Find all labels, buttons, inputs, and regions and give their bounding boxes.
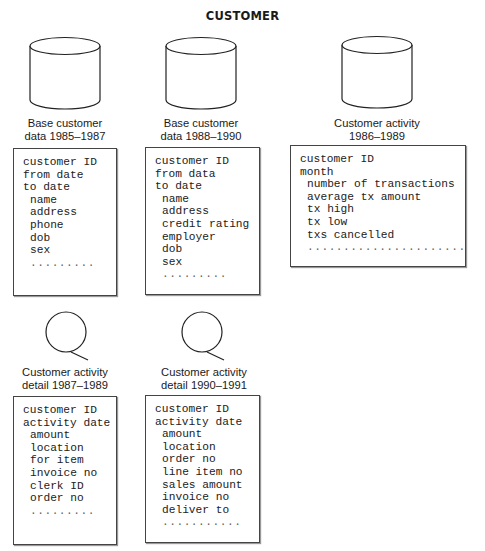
attribute: employer (155, 231, 259, 244)
record-box-customer-activity-1986-1989: customer ID month number of transactions… (290, 145, 466, 267)
key-field: customer ID (23, 156, 116, 169)
key-field: to date (155, 180, 259, 193)
key-field: activity date (23, 417, 116, 430)
ellipsis-dots: ......... (155, 268, 259, 281)
attribute: deliver to (155, 504, 259, 517)
record-box-activity-detail-1987-1989: customer ID activity date amount locatio… (13, 396, 117, 545)
key-field: from data (155, 168, 259, 181)
caption-line: Customer activity (141, 366, 267, 379)
attribute: invoice no (23, 467, 116, 480)
ellipsis-dots: ......... (23, 257, 116, 270)
attribute: line item no (155, 466, 259, 479)
attribute: order no (155, 453, 259, 466)
key-field: customer ID (300, 153, 465, 166)
caption-line: Customer activity (317, 117, 437, 130)
attribute: order no (23, 492, 116, 505)
database-cylinder-icon (340, 35, 414, 113)
store-caption: Customer activity detail 1990–1991 (141, 366, 267, 392)
caption-line: data 1985–1987 (5, 130, 125, 143)
attribute: sex (23, 244, 116, 257)
attribute: name (23, 194, 116, 207)
attribute: invoice no (155, 491, 259, 504)
store-caption: Customer activity 1986–1989 (317, 117, 437, 143)
record-box-base-customer-1988-1990: customer ID from data to date name addre… (145, 147, 260, 295)
attribute: amount (23, 429, 116, 442)
key-field: customer ID (23, 404, 116, 417)
attribute: location (155, 441, 259, 454)
attribute: address (23, 206, 116, 219)
attribute: txs cancelled (300, 229, 465, 242)
caption-line: detail 1990–1991 (141, 379, 267, 392)
attribute: name (155, 193, 259, 206)
attribute: location (23, 442, 116, 455)
caption-line: data 1988–1990 (141, 130, 261, 143)
caption-line: detail 1987–1989 (5, 379, 125, 392)
store-caption: Customer activity detail 1987–1989 (5, 366, 125, 392)
key-field: activity date (155, 416, 259, 429)
caption-line: Customer activity (5, 366, 125, 379)
attribute: credit rating (155, 218, 259, 231)
attribute: number of transactions (300, 178, 465, 191)
store-caption: Base customer data 1985–1987 (5, 117, 125, 143)
attribute: amount (155, 428, 259, 441)
attribute: clerk ID (23, 480, 116, 493)
attribute: tx low (300, 216, 465, 229)
database-cylinder-icon (28, 36, 102, 114)
magnifier-detail-icon (44, 310, 94, 364)
key-field: customer ID (155, 403, 259, 416)
database-cylinder-icon (164, 36, 238, 114)
key-field: customer ID (155, 155, 259, 168)
diagram-title: CUSTOMER (0, 9, 485, 23)
key-field: month (300, 166, 465, 179)
ellipsis-dots: ........... (155, 516, 259, 529)
attribute: dob (155, 243, 259, 256)
attribute: dob (23, 232, 116, 245)
attribute: for item (23, 454, 116, 467)
caption-line: Base customer (141, 117, 261, 130)
caption-line: 1986–1989 (317, 130, 437, 143)
caption-line: Base customer (5, 117, 125, 130)
attribute: sales amount (155, 479, 259, 492)
record-box-activity-detail-1990-1991: customer ID activity date amount locatio… (145, 395, 260, 543)
ellipsis-dots: ...................... (300, 241, 465, 254)
attribute: phone (23, 219, 116, 232)
key-field: to date (23, 181, 116, 194)
attribute: sex (155, 256, 259, 269)
key-field: from date (23, 169, 116, 182)
record-box-base-customer-1985-1987: customer ID from date to date name addre… (13, 148, 117, 296)
attribute: average tx amount (300, 191, 465, 204)
store-caption: Base customer data 1988–1990 (141, 117, 261, 143)
attribute: address (155, 205, 259, 218)
attribute: tx high (300, 203, 465, 216)
magnifier-detail-icon (180, 310, 230, 364)
ellipsis-dots: ......... (23, 505, 116, 518)
